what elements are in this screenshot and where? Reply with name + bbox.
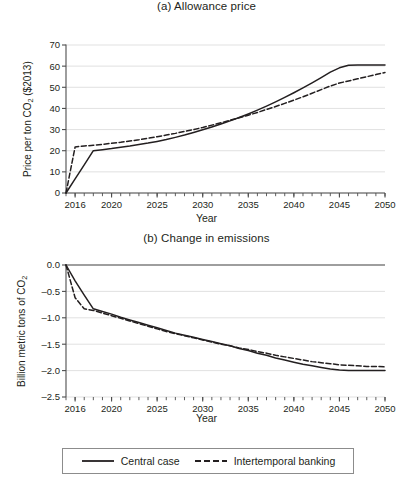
panel-allowance-price: (a) Allowance price Price per ton CO2 ($… xyxy=(0,0,413,232)
y-tick-label: 20 xyxy=(49,145,60,156)
x-tick-label: 2025 xyxy=(147,199,168,210)
x-tick-label: 2016 xyxy=(65,199,86,210)
y-tick-label: –0.5 xyxy=(42,286,61,297)
y-tick-label: 70 xyxy=(49,39,60,50)
x-tick-label: 2020 xyxy=(101,199,122,210)
x-tick-label: 2040 xyxy=(283,199,304,210)
x-tick-label: 2030 xyxy=(192,199,213,210)
legend-item-central-case: Central case xyxy=(81,455,180,467)
legend-swatch-dashed-icon xyxy=(194,456,228,466)
y-tick-label: 0.0 xyxy=(47,259,60,270)
series-line-central-case xyxy=(66,65,385,193)
legend-item-intertemporal-banking: Intertemporal banking xyxy=(194,455,336,467)
legend-label-intertemporal-banking: Intertemporal banking xyxy=(234,455,336,467)
legend-swatch-solid-icon xyxy=(81,456,115,466)
y-tick-label: 30 xyxy=(49,124,60,135)
legend-label-central-case: Central case xyxy=(121,455,180,467)
y-tick-label: –2.0 xyxy=(42,365,61,376)
y-tick-label: 0 xyxy=(55,187,60,198)
panel-b-x-axis-title: Year xyxy=(0,412,413,424)
y-tick-label: –1.5 xyxy=(42,339,61,350)
y-tick-label: 40 xyxy=(49,103,60,114)
x-tick-label: 2045 xyxy=(329,199,350,210)
y-tick-label: 60 xyxy=(49,61,60,72)
panel-b-plot: 0.0–0.5–1.0–1.5–2.0–2.520162020202520302… xyxy=(0,232,413,432)
y-tick-label: 50 xyxy=(49,82,60,93)
panel-change-in-emissions: (b) Change in emissions Billion metric t… xyxy=(0,232,413,432)
series-line-intertemporal-banking xyxy=(66,265,385,367)
y-tick-label: 10 xyxy=(49,166,60,177)
legend: Central case Intertemporal banking xyxy=(62,448,354,474)
y-tick-label: –2.5 xyxy=(42,391,61,402)
y-tick-label: –1.0 xyxy=(42,312,61,323)
panel-a-plot: 0102030405060702016202020252030203520402… xyxy=(0,0,413,232)
series-line-intertemporal-banking xyxy=(66,72,385,193)
figure-container: (a) Allowance price Price per ton CO2 ($… xyxy=(0,0,413,482)
x-tick-label: 2035 xyxy=(238,199,259,210)
panel-a-x-axis-title: Year xyxy=(0,212,413,224)
x-tick-label: 2050 xyxy=(374,199,395,210)
